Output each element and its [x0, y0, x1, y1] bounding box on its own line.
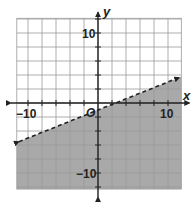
y-tick-label-10: 10	[82, 27, 96, 41]
origin-label: O	[86, 106, 96, 120]
y-tick-label-neg10: −10	[76, 167, 97, 181]
x-tick-label-10: 10	[160, 107, 174, 121]
y-axis-label: y	[102, 4, 111, 19]
inequality-graph: y x O −10 10 10 −10	[0, 0, 196, 206]
x-tick-label-neg10: −10	[16, 107, 37, 121]
x-axis-label: x	[182, 88, 191, 103]
